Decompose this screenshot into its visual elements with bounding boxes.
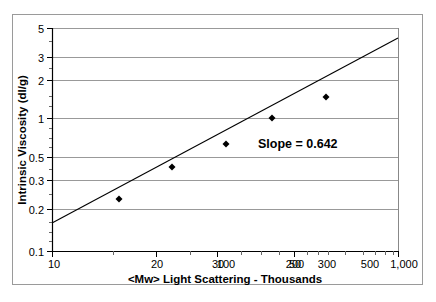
data-point: [169, 164, 176, 171]
figure-container: 5 3 2 1 0.5 0.3 0.2 0.1 10 20 30 50 <Mw>…: [0, 0, 436, 302]
chart-canvas: 5 3 2 1 0.5 0.3 0.2 0.1 10 20 30 50 <Mw>…: [0, 0, 436, 302]
y-tick-label: 0.1: [29, 246, 44, 258]
x-axis-title: <Mw> Light Scattering - Thousands: [128, 273, 322, 285]
y-axis-minor-ticks: [49, 42, 52, 242]
y-tick-label: 5: [38, 23, 44, 35]
data-point: [223, 141, 230, 148]
y-tick-labels: 5 3 2 1 0.5 0.3 0.2 0.1: [29, 23, 44, 258]
slope-annotation: Slope = 0.642: [258, 137, 338, 151]
y-axis-title: Intrinsic Viscosity (dl/g): [16, 75, 28, 205]
data-point: [116, 196, 123, 203]
x-tick-labels: 10 20 30 50: [48, 258, 301, 270]
x-tick-label: 30: [212, 258, 224, 270]
x-tick-label: 10: [48, 258, 60, 270]
trend-line: [52, 38, 398, 223]
x-tick-label: 50: [289, 258, 301, 270]
data-point: [323, 94, 330, 101]
y-tick-label: 3: [38, 52, 44, 64]
y-tick-label: 0.5: [29, 152, 44, 164]
y-tick-label: 1: [38, 113, 44, 125]
y-tick-label: 0.2: [29, 204, 44, 216]
y-tick-label: 2: [38, 75, 44, 87]
plot-frame: [52, 28, 399, 252]
gridlines-horizontal: [52, 29, 398, 210]
x-tick-label: 20: [151, 258, 163, 270]
y-axis-major-ticks: [47, 29, 52, 252]
y-tick-label: 0.3: [29, 175, 44, 187]
data-point: [269, 115, 276, 122]
